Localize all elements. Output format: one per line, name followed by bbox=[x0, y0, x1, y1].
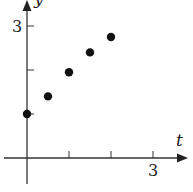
y-tick-label: 3 bbox=[12, 17, 22, 36]
data-point bbox=[86, 48, 94, 56]
x-axis-arrow-icon bbox=[177, 154, 188, 163]
data-points bbox=[23, 33, 115, 118]
data-point bbox=[23, 110, 31, 118]
ticks: 33 bbox=[12, 17, 158, 180]
data-point bbox=[44, 92, 52, 100]
data-point bbox=[107, 33, 115, 41]
y-axis-label: y bbox=[33, 0, 44, 8]
axes bbox=[4, 0, 188, 184]
y-axis-arrow-icon bbox=[23, 0, 32, 11]
x-tick-label: 3 bbox=[148, 161, 158, 180]
x-axis-label: t bbox=[176, 130, 183, 150]
scatter-plot: 33 t y bbox=[0, 0, 193, 192]
axis-labels: t y bbox=[33, 0, 183, 150]
data-point bbox=[65, 68, 73, 76]
